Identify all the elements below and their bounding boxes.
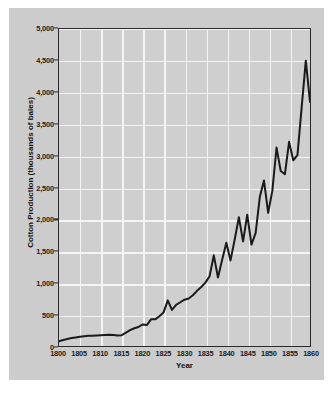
x-tick-label: 1855 <box>282 349 298 358</box>
x-tick-label: 1845 <box>240 349 256 358</box>
x-tick-label: 1825 <box>156 349 172 358</box>
y-tick-label: 3,000 <box>14 151 54 160</box>
chart-figure: Cotton Production (thousands of bales) 0… <box>9 8 324 380</box>
x-tick-label: 1850 <box>261 349 277 358</box>
x-tick-label: 1800 <box>50 349 66 358</box>
x-tick-label: 1840 <box>219 349 235 358</box>
y-tick-label: 4,500 <box>14 55 54 64</box>
series-line-cotton-production <box>59 29 310 346</box>
x-axis-title: Year <box>58 361 311 370</box>
y-tick-label: 1,500 <box>14 247 54 256</box>
x-tick-label: 1820 <box>135 349 151 358</box>
x-tick-label: 1815 <box>113 349 129 358</box>
plot-area <box>58 28 311 347</box>
y-tick-label: 4,000 <box>14 87 54 96</box>
x-tick-label: 1860 <box>303 349 319 358</box>
y-axis-tick-labels: 05001,0001,5002,0002,5003,0003,5004,0004… <box>9 28 54 347</box>
y-tick-label: 2,000 <box>14 215 54 224</box>
y-tick-label: 500 <box>14 311 54 320</box>
y-tick-label: 0 <box>14 343 54 352</box>
x-tick-label: 1810 <box>92 349 108 358</box>
y-tick-label: 5,000 <box>14 24 54 33</box>
y-tick-label: 2,500 <box>14 183 54 192</box>
y-tick-label: 1,000 <box>14 279 54 288</box>
y-tick-label: 3,500 <box>14 119 54 128</box>
x-tick-label: 1835 <box>198 349 214 358</box>
x-tick-label: 1805 <box>71 349 87 358</box>
x-tick-label: 1830 <box>177 349 193 358</box>
